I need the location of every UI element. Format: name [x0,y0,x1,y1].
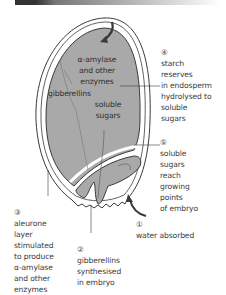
step-5-text: soluble sugars reach growing points of e… [160,149,198,213]
step-4-number: ④ [161,48,168,57]
step-3-label: ③ aleurone layer stimulated to produce α… [14,196,54,295]
step-1-number: ① [136,220,143,229]
step-4-text: starch reserves in endosperm hydrolysed … [161,59,212,123]
step-3-number: ③ [14,208,21,217]
step-4-label: ④ starch reserves in endosperm hydrolyse… [161,36,212,124]
gibberellins-label: gibberellins [48,88,91,99]
step-5-label: ⑤ soluble sugars reach growing points of… [160,126,198,214]
step-5-number: ⑤ [160,138,167,147]
enzymes-label: α-amylase and other enzymes [72,54,122,87]
step-1-text: water absorbed [136,231,194,240]
step-2-label: ② gibberellins synthesised in embryo [77,233,121,288]
soluble-sugars-label: soluble sugars [88,99,128,121]
step-1-label: ① water absorbed [136,208,194,241]
step-2-text: gibberellins synthesised in embryo [77,256,121,287]
step-2-number: ② [77,245,84,254]
step-3-text: aleurone layer stimulated to produce α-a… [14,219,54,294]
